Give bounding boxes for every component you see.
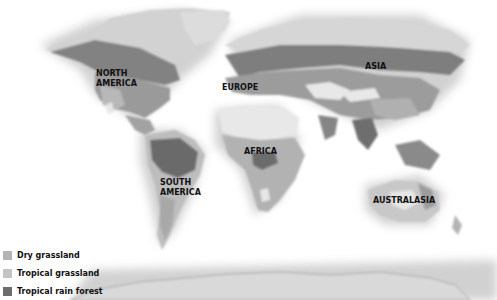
legend-label: Tropical grassland — [17, 269, 99, 278]
region-label-line: SOUTH — [160, 178, 201, 188]
legend-swatch-dry-grassland — [3, 251, 12, 260]
legend-swatch-tropical-grassland — [3, 269, 12, 278]
region-label-africa: AFRICA — [244, 147, 277, 157]
legend-label: Tropical rain forest — [17, 287, 103, 296]
legend-item-tropical-grassland: Tropical grassland — [3, 265, 103, 281]
continent-australia — [368, 180, 462, 235]
legend-item-dry-grassland: Dry grassland — [3, 247, 103, 263]
region-label-australasia: AUSTRALASIA — [373, 196, 435, 206]
region-label-line: AMERICA — [96, 79, 137, 89]
legend-item-tropical-rain-forest: Tropical rain forest — [3, 283, 103, 299]
map-legend: Dry grassland Tropical grassland Tropica… — [3, 247, 103, 300]
region-label-asia: ASIA — [365, 62, 386, 72]
region-label-europe: EUROPE — [222, 83, 258, 93]
region-label-north-america: NORTH AMERICA — [96, 69, 137, 89]
region-label-south-america: SOUTH AMERICA — [160, 178, 201, 198]
legend-swatch-tropical-rain-forest — [3, 287, 12, 296]
region-label-line: AMERICA — [160, 188, 201, 198]
region-label-line: NORTH — [96, 69, 137, 79]
legend-label: Dry grassland — [17, 251, 80, 260]
